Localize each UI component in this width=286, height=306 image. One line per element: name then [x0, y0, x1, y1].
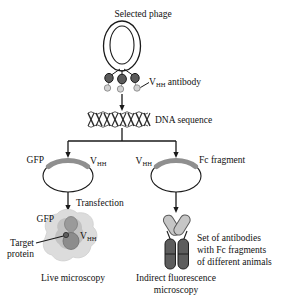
- vhh-dot-right: [131, 73, 139, 82]
- gfp-label-left: GFP: [27, 155, 44, 165]
- vhh-antibody-label: VHH antibody: [149, 77, 201, 88]
- vhh-label-left: VHH: [90, 156, 107, 167]
- indirect-fluorescence-caption-line1: Indirect fluorescence: [136, 273, 216, 283]
- phage-particle: [104, 21, 150, 92]
- coat-dot-center: [117, 86, 123, 92]
- antibody-description-line3: of different animals: [197, 257, 272, 267]
- vhh-label-right: VHH: [136, 156, 153, 167]
- live-microscopy-caption: Live microscopy: [41, 273, 105, 283]
- transfection-label: Transfection: [76, 198, 124, 208]
- target-protein-dot: [63, 232, 68, 237]
- plasmid-vhh-fc: [151, 160, 201, 192]
- phage-coat-dots: [104, 85, 140, 92]
- coat-dot-right: [134, 85, 140, 91]
- antibody-description-line2: with Fc fragments: [197, 245, 266, 255]
- target-protein-label-line2: protein: [7, 249, 34, 259]
- page-title: Selected phage: [114, 9, 171, 19]
- phage-display-workflow-diagram: Selected phage: [0, 0, 286, 306]
- dna-sequence-icon: [88, 112, 150, 128]
- vhh-dot-center: [118, 74, 127, 84]
- indirect-fluorescence-caption-line2: microscopy: [154, 285, 199, 295]
- vhh-display-dots: [105, 73, 139, 83]
- phage-capsid-inner: [110, 26, 134, 64]
- vhh-dot-left: [105, 73, 113, 82]
- branch-connector: [68, 128, 176, 141]
- gfp-label-cell: GFP: [37, 214, 54, 224]
- plasmid-gfp-vhh: [43, 160, 93, 192]
- target-protein-label-line1: Target: [10, 238, 34, 248]
- dna-sequence-label: DNA sequence: [155, 115, 212, 125]
- coat-dot-left: [104, 85, 110, 91]
- antibody-illustration: [162, 213, 193, 269]
- antibody-description-line1: Set of antibodies: [197, 233, 261, 243]
- vhh-antibody-leader-line: [141, 83, 150, 88]
- fc-fragment-label: Fc fragment: [199, 155, 246, 165]
